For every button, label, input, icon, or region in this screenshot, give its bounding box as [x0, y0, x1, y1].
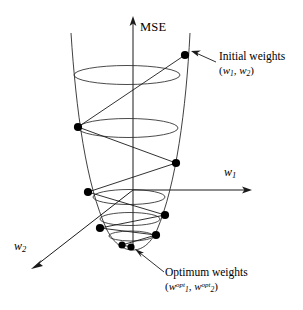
- optimum-weights-var2-sup: opt: [202, 281, 211, 289]
- optimum-weights-annotation: Optimum weights (wopt1, wopt2): [165, 266, 248, 295]
- trajectory-point: [118, 241, 125, 248]
- initial-weights-var1: w: [223, 64, 230, 76]
- trajectory-point-initial: [181, 51, 189, 59]
- w1-axis-label-sub: 1: [232, 170, 236, 180]
- optimum-weights-leader-line: [140, 253, 164, 272]
- optimum-weights-coords: (wopt1, wopt2): [165, 280, 248, 295]
- w1-axis-group: [133, 187, 252, 194]
- initial-weights-var2: w: [239, 64, 246, 76]
- contour-ring-4: [100, 213, 160, 226]
- w2-axis-label: w2: [14, 240, 26, 255]
- w2-axis-label-base: w: [14, 239, 22, 253]
- initial-weights-leader-arrowhead: [191, 51, 201, 57]
- optimum-weights-paren-close: ): [214, 280, 218, 292]
- optimum-weights-var2: w: [194, 280, 201, 292]
- trajectory-points: [74, 51, 189, 251]
- mse-axis-label: MSE: [140, 20, 166, 34]
- contour-ring-2: [78, 119, 178, 138]
- gradient-descent-figure: MSE w1 w2 Initial weights (w1, w2) Optim…: [0, 0, 303, 310]
- w2-axis-label-sub: 2: [22, 244, 26, 254]
- trajectory-point: [172, 159, 180, 167]
- optimum-weights-var1-sup: opt: [176, 281, 185, 289]
- trajectory-point: [74, 123, 82, 131]
- optimum-weights-leader-arrowhead: [135, 249, 144, 258]
- paraboloid-diagram-svg: [0, 0, 303, 310]
- descent-trajectory: [78, 55, 185, 247]
- optimum-weights-leader: [135, 249, 164, 272]
- initial-weights-coords: (w1, w2): [219, 64, 285, 79]
- w1-axis-label: w1: [224, 166, 236, 181]
- trajectory-point: [152, 231, 160, 239]
- optimum-weights-var1: w: [169, 280, 176, 292]
- trajectory-point-optimum: [127, 243, 134, 250]
- contour-ring-5: [109, 231, 153, 241]
- initial-weights-leader-line: [196, 53, 216, 62]
- trajectory-point: [96, 224, 104, 232]
- trajectory-point: [161, 211, 169, 219]
- descent-path-polyline: [78, 55, 185, 247]
- optimum-weights-title: Optimum weights: [165, 266, 248, 278]
- contour-ring-1: [74, 66, 180, 85]
- mse-axis-group: [130, 16, 137, 248]
- initial-weights-leader: [191, 51, 216, 63]
- initial-weights-paren-close: ): [250, 64, 254, 76]
- trajectory-point: [84, 188, 92, 196]
- w2-axis-group: [31, 190, 133, 269]
- w1-axis-label-base: w: [224, 165, 232, 179]
- initial-weights-annotation: Initial weights (w1, w2): [219, 50, 285, 79]
- initial-weights-title: Initial weights: [219, 50, 285, 62]
